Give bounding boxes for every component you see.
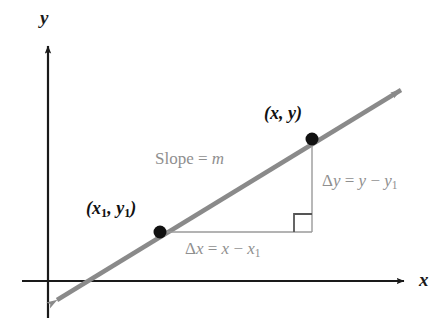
delta-x-equals: = <box>203 239 221 258</box>
point-x1-y1-comma: , <box>107 198 116 218</box>
delta-y-rhs-second-sub: 1 <box>392 179 398 192</box>
point-x1-y1-y: y <box>116 198 124 218</box>
right-angle-marker <box>294 214 312 232</box>
point-x-y-dot <box>306 133 319 146</box>
slope-label-prefix: Slope = <box>155 149 208 168</box>
point-x1-y1-dot <box>154 226 167 239</box>
point-x-y-x: x <box>270 103 279 123</box>
delta-y-rhs-first: y <box>359 171 367 190</box>
point-x1-y1-label: (x1, y1) <box>86 199 136 220</box>
delta-x-delta: Δ <box>185 239 196 258</box>
delta-y-equals: = <box>340 171 358 190</box>
point-x-y-label: (x, y) <box>264 104 302 122</box>
delta-y-label: Δy = y − y1 <box>322 172 398 192</box>
y-axis-label: y <box>40 8 48 27</box>
delta-x-label: Δx = x − x1 <box>185 240 261 260</box>
slope-diagram-figure: y x (x, y) (x1, y1) Slope = m Δy = y − y… <box>0 0 439 325</box>
point-x-y-y: y <box>288 103 296 123</box>
delta-x-rhs-second: x <box>247 239 255 258</box>
x-axis-label: x <box>419 270 429 289</box>
delta-y-rhs-second: y <box>384 171 392 190</box>
point-x-y-close: ) <box>296 103 302 123</box>
slope-line <box>57 90 401 300</box>
delta-x-rhs-first: x <box>222 239 230 258</box>
slope-label-variable: m <box>212 149 224 168</box>
point-x-y-comma: , <box>279 103 288 123</box>
delta-y-minus: − <box>366 171 384 190</box>
slope-label: Slope = m <box>155 150 224 167</box>
delta-x-minus: − <box>229 239 247 258</box>
delta-y-delta: Δ <box>322 171 333 190</box>
point-x1-y1-close: ) <box>130 198 136 218</box>
point-x1-y1-x: x <box>92 198 101 218</box>
delta-x-rhs-second-sub: 1 <box>255 247 261 260</box>
